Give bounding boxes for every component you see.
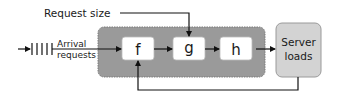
arrival-label-line1: Arrival <box>57 39 86 49</box>
server-loads-label-line1: Server <box>281 36 316 48</box>
stage-g-label: g <box>184 39 194 57</box>
server-loads-label-line2: loads <box>285 50 313 62</box>
pipeline-diagram: Server loads f g h Request size Arrival … <box>0 0 340 100</box>
arrival-label-line2: requests <box>57 50 96 60</box>
request-size-label: Request size <box>44 7 110 19</box>
queue-bars-icon <box>32 43 52 55</box>
stage-h-label: h <box>231 41 241 59</box>
stage-f-label: f <box>135 41 141 59</box>
